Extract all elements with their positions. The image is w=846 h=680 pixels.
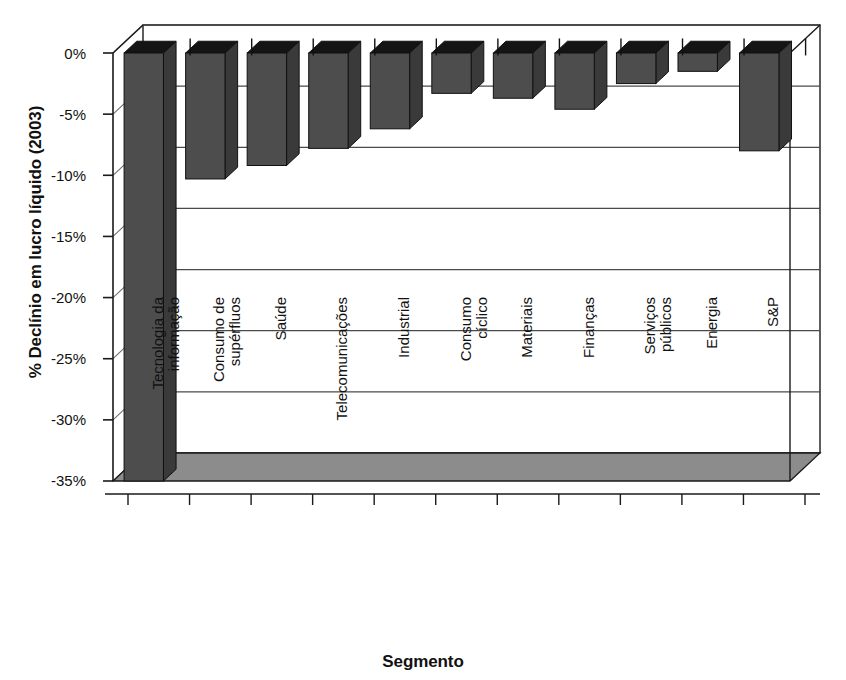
bar-front-face [247, 53, 286, 166]
bar-front-face [370, 53, 409, 129]
bar-column [309, 41, 361, 148]
x-axis-title: Segmento [0, 652, 846, 672]
bar-side-face [163, 41, 176, 481]
bar-column [678, 41, 730, 71]
floor-plane [113, 453, 820, 481]
bar-column [740, 41, 792, 151]
bar-front-face [678, 53, 717, 71]
bar-column [247, 41, 299, 165]
chart-figure: % Declínio em lucro líquido (2003) 0% -5… [0, 0, 846, 680]
bar-column [493, 41, 545, 98]
bar-front-face [309, 53, 348, 148]
bar-column [124, 41, 176, 481]
plot-area [0, 0, 846, 680]
bar-column [555, 41, 607, 109]
bar-front-face [740, 53, 779, 151]
bar-side-face [348, 41, 361, 148]
bar-column [186, 41, 238, 179]
bar-front-face [555, 53, 594, 109]
bar-column [370, 41, 422, 129]
bar-front-face [186, 53, 225, 179]
bar-front-face [493, 53, 532, 98]
bar-side-face [225, 41, 238, 179]
bar-column [432, 41, 484, 93]
bar-front-face [124, 53, 163, 481]
back-wall [143, 25, 820, 453]
bar-side-face [287, 41, 300, 165]
bar-side-face [410, 41, 423, 129]
bar-front-face [432, 53, 471, 93]
bar-front-face [616, 53, 655, 84]
bar-column [616, 41, 668, 83]
bar-side-face [779, 41, 792, 151]
